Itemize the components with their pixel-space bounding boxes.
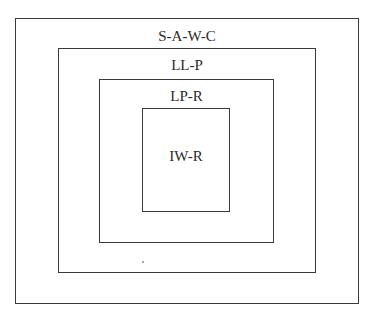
stray-dot — [142, 261, 144, 263]
layer-label-outer: S-A-W-C — [16, 29, 358, 44]
layer-label-third: LP-R — [100, 89, 273, 104]
layer-box-inner: IW-R — [142, 108, 230, 212]
layer-label-inner: IW-R — [143, 149, 229, 164]
layer-label-second: LL-P — [59, 58, 315, 73]
